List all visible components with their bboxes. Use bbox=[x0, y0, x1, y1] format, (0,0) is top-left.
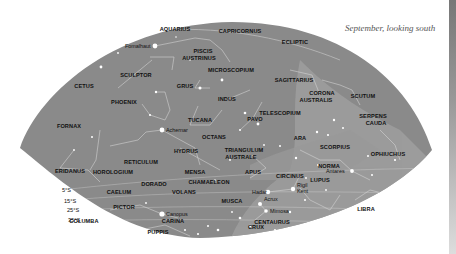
constellation-label: TELESCOPIUM bbox=[259, 110, 301, 116]
declination-label: 35°S bbox=[68, 217, 80, 223]
constellation-label: LUPUS bbox=[310, 177, 329, 183]
star-label: Mimosa bbox=[270, 208, 289, 214]
constellation-label: CAELUM bbox=[107, 189, 132, 195]
star-label: Canopus bbox=[166, 211, 188, 217]
constellation-label: ECLIPTIC bbox=[282, 39, 308, 45]
constellation-label: DORADO bbox=[141, 181, 166, 187]
constellation-label: INDUS bbox=[218, 96, 236, 102]
constellation-label: CHAMAELEON bbox=[188, 179, 229, 185]
constellation-label: VOLANS bbox=[172, 189, 196, 195]
constellation-label: HOROLOGIUM bbox=[93, 169, 133, 175]
constellation-label: AUSTRALE bbox=[225, 154, 256, 160]
constellation-label: CARINA bbox=[162, 218, 184, 224]
constellation-label: SAGITTARIUS bbox=[275, 77, 314, 83]
constellation-label: GRUS bbox=[177, 83, 194, 89]
constellation-label: CETUS bbox=[74, 83, 93, 89]
star-label: Hadar bbox=[252, 189, 267, 195]
page-edge bbox=[449, 0, 456, 254]
constellation-label: TRIANGULUM bbox=[225, 147, 264, 153]
declination-label: 15°S bbox=[64, 198, 76, 204]
constellation-label: AUSTRALIS bbox=[300, 97, 333, 103]
constellation-label: CAPRICORNUS bbox=[219, 28, 262, 34]
constellation-label: APUS bbox=[245, 169, 261, 175]
constellation-label: OCTANS bbox=[202, 134, 226, 140]
constellation-label: SERPENS bbox=[359, 113, 386, 119]
constellation-label: CENTAURUS bbox=[254, 219, 290, 225]
constellation-label: PICTOR bbox=[113, 204, 135, 210]
constellation-label: MUSCA bbox=[221, 198, 242, 204]
constellation-label: RETICULUM bbox=[124, 159, 158, 165]
constellation-label: SCULPTOR bbox=[120, 72, 151, 78]
constellation-label: CORONA bbox=[309, 90, 334, 96]
constellation-label: SCORPIUS bbox=[320, 144, 350, 150]
star-label: Rigil Kent bbox=[297, 183, 311, 194]
constellation-label: SCUTUM bbox=[351, 93, 376, 99]
star-label: Fomalhaut bbox=[125, 43, 150, 49]
constellation-label: HYDRUS bbox=[174, 148, 198, 154]
constellation-label: PISCIS bbox=[194, 48, 213, 54]
constellation-label: OPHIUCHUS bbox=[371, 151, 405, 157]
star-label: Acrux bbox=[264, 196, 278, 202]
constellation-label: FORNAX bbox=[57, 123, 81, 129]
declination-label: 25°S bbox=[67, 207, 79, 213]
constellation-label: PHOENIX bbox=[111, 99, 137, 105]
constellation-label: LIBRA bbox=[357, 206, 375, 212]
chart-caption: September, looking south bbox=[345, 23, 435, 33]
declination-label: 5°S bbox=[62, 187, 71, 193]
constellation-label: TUCANA bbox=[188, 117, 212, 123]
star-label: Achernar bbox=[166, 127, 188, 133]
constellation-label: ERIDANUS bbox=[55, 168, 85, 174]
constellation-label: MENSA bbox=[185, 169, 206, 175]
constellation-label: CIRCINUS bbox=[276, 173, 304, 179]
constellation-label: PAVO bbox=[247, 116, 262, 122]
constellation-label: AUSTRINUS bbox=[182, 55, 216, 61]
constellation-label: AQUARIUS bbox=[160, 26, 191, 32]
constellation-label: PUPPIS bbox=[147, 229, 168, 235]
constellation-label: ARA bbox=[294, 135, 306, 141]
constellation-label: CAUDA bbox=[366, 120, 387, 126]
constellation-label: MICROSCOPIUM bbox=[208, 67, 254, 73]
star-label: Antares bbox=[326, 168, 345, 174]
